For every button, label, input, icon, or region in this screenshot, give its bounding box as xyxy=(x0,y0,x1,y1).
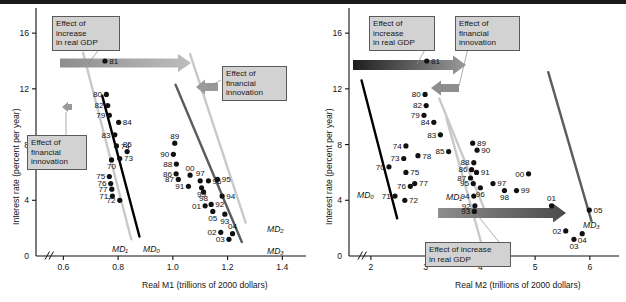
annotation-gdp-effect-bottom-m2: Effect of increase in real GDP xyxy=(425,242,511,267)
x-tick-label: 2 xyxy=(369,262,374,272)
data-point-label: 83 xyxy=(427,131,437,140)
data-point xyxy=(104,92,109,97)
data-point-label: 01 xyxy=(547,194,557,203)
data-point xyxy=(471,160,476,165)
data-point xyxy=(422,92,427,97)
curve-label-md1: MD₁ xyxy=(112,244,128,254)
data-point xyxy=(186,184,191,189)
data-point-label: 81 xyxy=(109,57,119,66)
data-point xyxy=(220,194,225,199)
data-point xyxy=(431,120,436,125)
curve-label-md3: MD₃ xyxy=(267,246,284,256)
data-point xyxy=(472,209,477,214)
curve-label-md3: MD₃ xyxy=(583,220,600,230)
data-point-label: 04 xyxy=(578,236,588,245)
data-point-label: 95 xyxy=(222,175,232,184)
data-point-label: 87 xyxy=(165,175,175,184)
x-tick-label: 1.4 xyxy=(276,262,288,272)
data-point xyxy=(107,174,112,179)
y-tick-label: 12 xyxy=(19,84,29,94)
data-point xyxy=(187,173,192,178)
data-point-label: 02 xyxy=(553,227,563,236)
data-point-label: 80 xyxy=(412,90,422,99)
x-tick-label: 6 xyxy=(587,262,592,272)
data-point xyxy=(198,178,203,183)
data-point xyxy=(474,148,479,153)
data-point-label: 72 xyxy=(107,196,117,205)
data-point-label: 82 xyxy=(413,101,423,110)
y-tick-label: 0 xyxy=(337,251,342,261)
data-point-label: 92 xyxy=(215,200,225,209)
data-point xyxy=(105,103,110,108)
data-point-label: 73 xyxy=(124,154,134,163)
data-point-label: 70 xyxy=(107,162,117,171)
data-point xyxy=(470,141,475,146)
data-point-label: 76 xyxy=(397,182,407,191)
x-axis-label-m2: Real M2 (trillions of 2000 dollars) xyxy=(455,280,581,290)
data-point xyxy=(469,167,474,172)
data-point-label: 91 xyxy=(175,182,185,191)
data-point xyxy=(226,237,231,242)
arrow-gdp-arrow-bottom xyxy=(438,204,566,223)
annotation-financial-innovation-m2: Effect of financial innovation xyxy=(455,16,520,51)
data-point xyxy=(587,207,592,212)
data-point-label: 95 xyxy=(460,179,470,188)
data-point xyxy=(424,58,429,63)
y-tick-label: 12 xyxy=(332,84,342,94)
data-point xyxy=(116,120,121,125)
data-point-label: 83 xyxy=(102,131,112,140)
data-point-label: 81 xyxy=(431,57,441,66)
y-tick-label: 4 xyxy=(337,195,342,205)
data-point-label: 04 xyxy=(228,222,238,231)
data-point-label: 72 xyxy=(409,196,419,205)
x-tick-label: 1.0 xyxy=(167,262,179,272)
data-point xyxy=(102,58,107,63)
data-point-label: 01 xyxy=(192,202,202,211)
data-point xyxy=(549,203,554,208)
data-point-label: 05 xyxy=(593,206,603,215)
data-point-label: 98 xyxy=(500,193,510,202)
data-point xyxy=(403,170,408,175)
data-point xyxy=(403,143,408,148)
data-point xyxy=(402,198,407,203)
y-tick-label: 16 xyxy=(19,28,29,38)
arrow-gdp-arrow xyxy=(60,54,191,72)
data-point-label: 73 xyxy=(391,154,401,163)
data-point-label: 71 xyxy=(382,192,392,201)
data-point xyxy=(412,181,417,186)
data-point-label: 91 xyxy=(481,168,491,177)
data-point xyxy=(474,170,479,175)
y-axis-label-m1: Interest rate (percent per year) xyxy=(11,108,21,225)
data-point xyxy=(471,181,476,186)
x-tick-label: 0.6 xyxy=(57,262,69,272)
data-point xyxy=(415,153,420,158)
data-point-label: 85 xyxy=(123,140,133,149)
data-point xyxy=(438,132,443,137)
data-point xyxy=(114,143,119,148)
data-point xyxy=(471,194,476,199)
data-point xyxy=(446,149,451,154)
data-point-label: 79 xyxy=(96,111,106,120)
data-point xyxy=(174,161,179,166)
data-point-label: 70 xyxy=(376,163,386,172)
data-point-label: 74 xyxy=(393,142,403,151)
data-point xyxy=(107,113,112,118)
data-point-label: 82 xyxy=(94,101,104,110)
data-point-label: 97 xyxy=(196,169,206,178)
data-point xyxy=(386,164,391,169)
y-tick-label: 4 xyxy=(24,195,29,205)
data-point-label: 89 xyxy=(170,132,180,141)
figure-root: 04812160.60.81.01.21.4MD₀MD₁MD₂MD₃818082… xyxy=(0,0,626,302)
curve-label-md0: MD₀ xyxy=(143,244,160,254)
arrow-fin-arrow xyxy=(431,81,459,96)
x-tick-label: 5 xyxy=(533,262,538,272)
data-point xyxy=(472,203,477,208)
data-point xyxy=(424,103,429,108)
curve-label-md2: MD₂ xyxy=(267,224,284,234)
data-point xyxy=(209,202,214,207)
data-point-label: 84 xyxy=(421,118,431,127)
x-tick-label: 0.8 xyxy=(112,262,124,272)
data-point-label: 80 xyxy=(93,90,103,99)
data-point-label: 85 xyxy=(435,147,445,156)
y-tick-label: 8 xyxy=(337,140,342,150)
